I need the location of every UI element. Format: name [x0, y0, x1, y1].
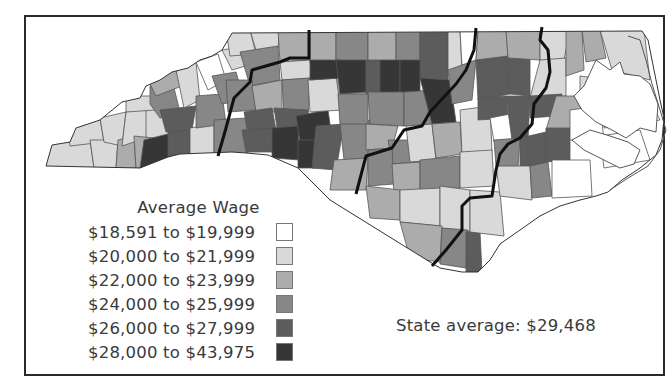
legend: Average Wage $18,591 to $19,999 $20,000 …	[88, 196, 303, 364]
legend-label: $22,000 to $23,999	[88, 271, 274, 290]
legend-swatch	[276, 247, 293, 265]
legend-label: $28,000 to $43,975	[88, 343, 274, 362]
legend-item: $22,000 to $23,999	[88, 268, 303, 292]
legend-swatch	[276, 343, 293, 361]
legend-item: $24,000 to $25,999	[88, 292, 303, 316]
legend-swatch	[276, 223, 293, 241]
legend-title: Average Wage	[94, 196, 303, 220]
legend-item: $20,000 to $21,999	[88, 244, 303, 268]
legend-label: $20,000 to $21,999	[88, 247, 274, 266]
legend-swatch	[276, 271, 293, 289]
legend-item: $28,000 to $43,975	[88, 340, 303, 364]
legend-item: $26,000 to $27,999	[88, 316, 303, 340]
legend-swatch	[276, 319, 293, 337]
legend-label: $26,000 to $27,999	[88, 319, 274, 338]
state-average: State average: $29,468	[396, 316, 596, 335]
legend-label: $24,000 to $25,999	[88, 295, 274, 314]
legend-label: $18,591 to $19,999	[88, 223, 274, 242]
legend-swatch	[276, 295, 293, 313]
legend-item: $18,591 to $19,999	[88, 220, 303, 244]
